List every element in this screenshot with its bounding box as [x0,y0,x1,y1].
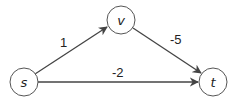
node-label-s: s [21,75,28,90]
edge-s-v [35,27,107,74]
node-label-t: t [210,75,216,90]
node-label-v: v [117,13,125,28]
edge-label-s-v: 1 [60,35,67,50]
edge-label-s-t: -2 [112,65,124,80]
graph-diagram: 1 -5 -2 s v t [0,0,238,102]
edge-v-t [133,28,201,73]
edge-label-v-t: -5 [170,32,182,47]
